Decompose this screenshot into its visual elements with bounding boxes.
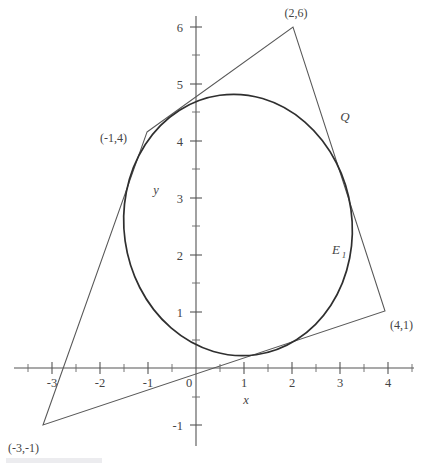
x-tick-label: 2 <box>289 376 295 390</box>
y-tick-label: 2 <box>177 249 183 263</box>
ellipse-annotation-subscript: 1 <box>342 250 347 260</box>
x-tick-label: 3 <box>337 376 343 390</box>
vertex-label-right: (4,1) <box>390 318 413 332</box>
y-tick-label: 6 <box>177 21 183 35</box>
figure-canvas: -3 -2 -1 0 1 2 3 4 6 5 4 3 2 1 -1 x y (2… <box>0 0 428 466</box>
y-tick-label: -1 <box>173 419 183 433</box>
quadrilateral-Q <box>43 27 385 425</box>
quadrilateral-annotation: Q <box>340 109 350 124</box>
x-tick-labels: -3 -2 -1 0 1 2 3 4 <box>47 376 392 390</box>
x-tick-label: -1 <box>143 376 153 390</box>
y-tick-label: 5 <box>177 78 183 92</box>
svg-text:E: E <box>331 242 340 257</box>
ellipse-E1 <box>107 79 369 370</box>
x-axis-label: x <box>242 393 249 407</box>
x-tick-label: 1 <box>241 376 247 390</box>
axis-group <box>14 16 414 446</box>
y-tick-label: 3 <box>177 192 183 206</box>
plot-svg: -3 -2 -1 0 1 2 3 4 6 5 4 3 2 1 -1 x y (2… <box>0 0 428 466</box>
ellipse-annotation: E 1 <box>331 242 346 260</box>
scan-edge-artifact <box>6 458 102 463</box>
vertex-label-left: (-1,4) <box>100 131 127 145</box>
vertex-label-bottom: (-3,-1) <box>8 441 39 455</box>
y-tick-label: 4 <box>177 135 184 149</box>
x-tick-label-origin: 0 <box>186 376 192 390</box>
y-tick-label: 1 <box>177 306 183 320</box>
x-tick-label: -2 <box>95 376 105 390</box>
x-tick-label: 4 <box>385 376 392 390</box>
y-tick-labels: 6 5 4 3 2 1 -1 <box>173 21 184 433</box>
y-axis-label: y <box>151 183 159 197</box>
vertex-label-top: (2,6) <box>285 6 308 20</box>
